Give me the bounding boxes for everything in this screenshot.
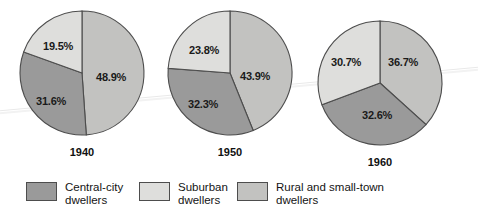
legend-label-rural-small-town-line2: dwellers [276, 194, 384, 207]
legend-swatch-central-city-icon [26, 182, 57, 201]
pie-1950-year-label: 1950 [190, 146, 270, 158]
pie-chart-1940: 48.9% 31.6% 19.5% [16, 6, 148, 140]
pie-1960-year-label: 1960 [340, 156, 420, 168]
legend-label-central-city-line1: Central-city [65, 181, 123, 193]
pie-1960-value-rural: 36.7% [388, 56, 418, 68]
pie-1950-value-rural: 43.9% [240, 70, 270, 82]
legend-label-rural-small-town: Rural and small-town dwellers [276, 181, 384, 206]
pie-1940-value-central-city: 31.6% [36, 95, 66, 107]
legend-label-central-city: Central-city dwellers [65, 181, 123, 206]
pie-1960-value-suburban: 30.7% [331, 56, 361, 68]
legend-swatch-suburban-icon [139, 182, 170, 201]
pie-1940-year-label: 1940 [42, 146, 122, 158]
pie-1950-svg [164, 6, 296, 140]
pie-1950-value-central-city: 32.3% [188, 98, 218, 110]
pie-1950-value-suburban: 23.8% [189, 44, 219, 56]
legend-item-rural-small-town[interactable]: Rural and small-town dwellers [237, 181, 384, 206]
pie-1960-svg [314, 16, 446, 150]
pie-chart-1950: 43.9% 32.3% 23.8% [164, 6, 296, 140]
pie-slice-suburban-1950[interactable] [168, 11, 230, 73]
legend-label-suburban: Suburban dwellers [178, 181, 228, 206]
legend-label-suburban-line2: dwellers [178, 194, 228, 207]
legend-label-rural-small-town-line1: Rural and small-town [276, 181, 384, 193]
pie-1960-value-central-city: 32.6% [362, 109, 392, 121]
pie-1940-value-suburban: 19.5% [43, 40, 73, 52]
legend-swatch-rural-small-town-icon [237, 182, 268, 201]
legend-item-suburban[interactable]: Suburban dwellers [139, 181, 228, 206]
pie-1940-value-rural: 48.9% [96, 71, 126, 83]
pie-chart-1960: 36.7% 32.6% 30.7% [314, 16, 446, 150]
legend-label-central-city-line2: dwellers [65, 194, 123, 207]
pie-1940-svg [16, 6, 148, 140]
legend: Central-city dwellers Suburban dwellers … [0, 176, 459, 216]
legend-item-central-city[interactable]: Central-city dwellers [26, 181, 123, 206]
legend-label-suburban-line1: Suburban [178, 181, 228, 193]
